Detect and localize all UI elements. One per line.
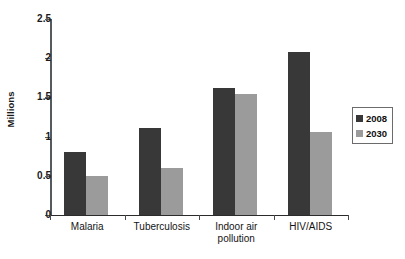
legend-swatch-icon: [356, 130, 363, 137]
x-tick-mark: [274, 215, 275, 220]
y-tick-label: 1: [25, 131, 51, 142]
bar-chart: Millions 00.511.522.5 MalariaTuberculosi…: [0, 0, 405, 259]
legend-item[interactable]: 2008: [356, 111, 392, 126]
x-axis-label: HIV/AIDS: [274, 221, 349, 233]
x-tick-mark: [199, 215, 200, 220]
legend-item[interactable]: 2030: [356, 126, 392, 141]
bar: [235, 94, 257, 215]
y-tick-label: 0.5: [25, 170, 51, 181]
y-tick-label: 2.5: [25, 13, 51, 24]
x-tick-mark: [125, 215, 126, 220]
x-tick-mark: [348, 215, 349, 220]
y-tick-label: 0: [25, 209, 51, 220]
bar: [288, 52, 310, 215]
y-tick-label: 2: [25, 52, 51, 63]
bar: [64, 152, 86, 215]
x-tick-mark: [50, 215, 51, 220]
y-tick-label: 1.5: [25, 91, 51, 102]
chart-legend: 20082030: [352, 107, 393, 144]
bar: [86, 176, 108, 215]
bar: [213, 88, 235, 215]
legend-label: 2008: [366, 114, 387, 124]
legend-swatch-icon: [356, 115, 363, 122]
bar: [161, 168, 183, 215]
y-axis-title: Millions: [5, 82, 16, 138]
x-axis-label: Tuberculosis: [125, 221, 200, 233]
plot-area: [50, 19, 348, 215]
x-axis-label: Malaria: [50, 221, 125, 233]
bar: [139, 128, 161, 215]
x-axis-label: Indoor air pollution: [199, 221, 274, 244]
legend-label: 2030: [366, 129, 387, 139]
bar: [310, 132, 332, 215]
